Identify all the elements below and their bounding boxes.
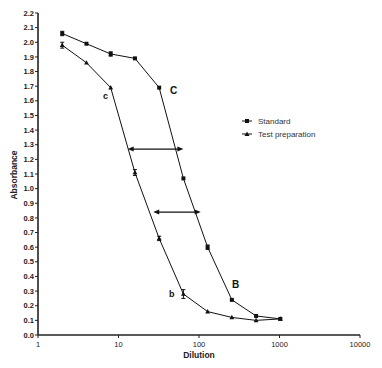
series-standard [60, 31, 282, 320]
dilution-absorbance-chart: 0.00.10.20.30.40.50.60.70.80.91.01.11.21… [0, 0, 382, 368]
y-axis-label: Absorbance [9, 150, 19, 199]
x-axis-label: Dilution [183, 350, 215, 360]
y-tick-label: 1.0 [24, 184, 34, 193]
y-tick-label: 1.6 [24, 96, 34, 105]
y-tick-label: 2.1 [24, 23, 34, 32]
y-tick-label: 1.4 [24, 126, 35, 135]
y-tick-label: 0.0 [24, 331, 34, 340]
x-tick-label: 10 [114, 340, 122, 349]
legend: Standard Test preparation [242, 117, 315, 139]
potency-arrows [128, 147, 201, 215]
y-tick-label: 1.5 [24, 111, 34, 120]
x-tick-label: 1000 [271, 340, 288, 349]
legend-item-standard: Standard [242, 117, 290, 126]
x-tick-label: 100 [193, 340, 206, 349]
annotation-b: b [169, 289, 175, 299]
y-tick-label: 0.4 [24, 272, 35, 281]
annotation-B: B [232, 279, 239, 290]
y-tick-label: 0.5 [24, 257, 34, 266]
svg-text:Test preparation: Test preparation [258, 130, 315, 139]
x-axis-ticks: 110100100010000 [36, 335, 371, 349]
legend-item-test-preparation: Test preparation [242, 130, 315, 139]
y-tick-label: 0.3 [24, 287, 34, 296]
x-tick-label: 10000 [350, 340, 371, 349]
y-tick-label: 1.2 [24, 155, 34, 164]
y-tick-label: 1.9 [24, 53, 34, 62]
svg-text:Standard: Standard [258, 117, 290, 126]
y-tick-label: 2.2 [24, 9, 34, 18]
annotation-c: c [103, 91, 108, 101]
x-tick-label: 1 [36, 340, 40, 349]
y-tick-label: 0.9 [24, 199, 34, 208]
y-tick-label: 0.2 [24, 301, 34, 310]
annotation-C: C [170, 85, 177, 96]
y-tick-label: 1.3 [24, 140, 34, 149]
square-marker-icon [245, 119, 249, 123]
y-tick-label: 0.6 [24, 243, 34, 252]
y-tick-label: 0.8 [24, 214, 34, 223]
y-tick-label: 1.1 [24, 170, 34, 179]
series-lines [60, 31, 283, 322]
y-tick-label: 0.7 [24, 228, 34, 237]
y-axis-ticks: 0.00.10.20.30.40.50.60.70.80.91.01.11.21… [24, 9, 38, 340]
y-tick-label: 0.1 [24, 316, 34, 325]
y-tick-label: 1.8 [24, 67, 34, 76]
y-tick-label: 1.7 [24, 82, 34, 91]
y-tick-label: 2.0 [24, 38, 34, 47]
